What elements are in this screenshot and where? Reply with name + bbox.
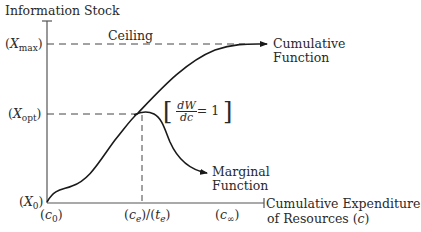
y-axis-title: Information Stock: [5, 4, 120, 18]
marginal-function-label: Marginal Function: [212, 165, 270, 193]
x-tick-c-e: (ce)/(te): [124, 208, 170, 226]
derivative-fraction: dW dc: [176, 100, 196, 123]
y-tick-x-opt: (Xopt): [8, 107, 41, 125]
y-axis: [42, 21, 52, 203]
y-tick-x-max: (Xmax): [5, 37, 43, 55]
x-axis-title-line1: Cumulative Expenditure: [266, 197, 421, 211]
derivative-annotation: [ dW dc = 1 ]: [163, 99, 232, 123]
x-axis-title-line2: of Resources (c): [267, 212, 369, 226]
x-tick-c-0: (c0): [40, 208, 63, 226]
cumulative-function-label: Cumulative Function: [273, 37, 345, 65]
x-tick-c-infinity: (c∞): [215, 208, 239, 226]
ceiling-label: Ceiling: [108, 29, 153, 43]
